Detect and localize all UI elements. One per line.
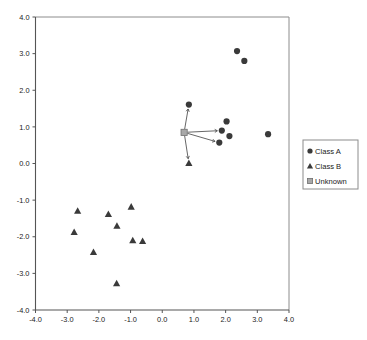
x-tick-label: 1.0 xyxy=(189,315,199,324)
x-tick-label: -2.0 xyxy=(93,315,106,324)
data-point-class-b xyxy=(74,207,81,214)
legend-item-label: Class A xyxy=(315,147,342,156)
neighbor-arrow-line xyxy=(187,133,215,141)
y-tick-label: 3.0 xyxy=(19,49,29,58)
data-point-class-a xyxy=(241,58,247,64)
y-tick-label: 4.0 xyxy=(19,13,29,22)
data-point-class-b xyxy=(185,160,192,167)
y-tick-label: 2.0 xyxy=(19,86,29,95)
x-tick-label: -4.0 xyxy=(29,315,42,324)
data-point-class-b xyxy=(71,228,78,235)
y-tick-label: 0.0 xyxy=(19,159,29,168)
x-tick-label: 3.0 xyxy=(252,315,262,324)
data-point-class-a xyxy=(216,140,222,146)
legend-circle-icon xyxy=(307,148,312,153)
data-point-class-a xyxy=(219,127,225,133)
data-point-class-b xyxy=(128,203,135,210)
data-point-class-a xyxy=(186,101,192,107)
data-point-unknown xyxy=(181,129,187,135)
y-tick-label: -2.0 xyxy=(17,232,30,241)
x-tick-label: 4.0 xyxy=(284,315,294,324)
data-point-class-b xyxy=(90,249,97,256)
data-point-class-b xyxy=(129,237,136,244)
data-point-class-b xyxy=(113,222,120,229)
data-point-class-a xyxy=(226,133,232,139)
scatter-plot-figure: 4.03.02.01.00.0-1.0-2.0-3.0-4.0-4.0-3.0-… xyxy=(0,0,367,340)
legend-square-icon xyxy=(307,178,312,183)
neighbor-arrow-line xyxy=(188,131,218,132)
data-point-class-a xyxy=(265,131,271,137)
legend-item-label: Unknown xyxy=(315,177,347,186)
data-point-class-b xyxy=(105,210,112,217)
data-point-class-a xyxy=(223,118,229,124)
data-point-class-b xyxy=(139,238,146,245)
data-point-class-a xyxy=(234,48,240,54)
x-tick-label: -1.0 xyxy=(124,315,137,324)
y-tick-label: -3.0 xyxy=(17,269,30,278)
y-tick-label: -1.0 xyxy=(17,196,30,205)
plot-frame xyxy=(36,17,290,310)
x-tick-label: 2.0 xyxy=(220,315,230,324)
plot-axes xyxy=(36,17,290,310)
x-tick-label: 0.0 xyxy=(157,315,167,324)
data-point-class-b xyxy=(113,280,120,287)
neighbor-arrow-line xyxy=(185,109,188,129)
x-tick-label: -3.0 xyxy=(61,315,74,324)
legend-item-label: Class B xyxy=(315,162,341,171)
y-tick-label: 1.0 xyxy=(19,123,29,132)
y-tick-label: -4.0 xyxy=(17,306,30,315)
neighbor-arrow-line xyxy=(185,136,189,159)
chart-canvas: 4.03.02.01.00.0-1.0-2.0-3.0-4.0-4.0-3.0-… xyxy=(0,0,367,340)
